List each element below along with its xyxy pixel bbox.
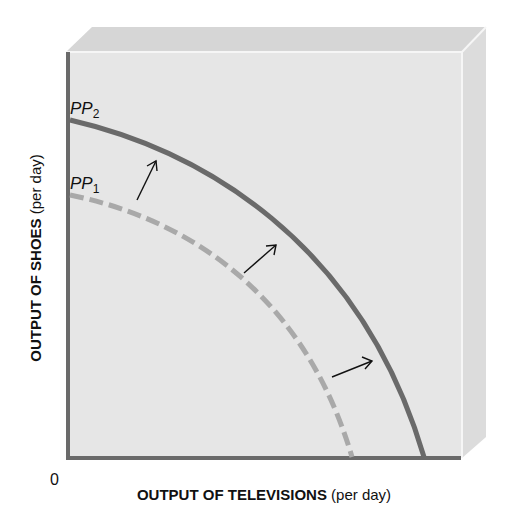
panel-top-face — [66, 27, 486, 52]
origin-label: 0 — [50, 471, 59, 488]
y-axis-label: OUTPUT OF SHOES (per day) — [27, 154, 44, 362]
panel-side-face — [462, 27, 486, 458]
ppc-diagram: PP2 PP1 0 OUTPUT OF TELEVISIONS (per day… — [0, 0, 512, 521]
x-axis-label: OUTPUT OF TELEVISIONS (per day) — [137, 486, 391, 503]
